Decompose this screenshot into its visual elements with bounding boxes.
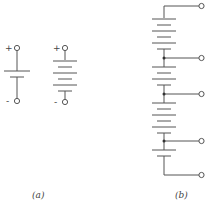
positive-terminal-icon [14,45,19,50]
battery-diagram: + - + - (a) (b) [0,0,211,204]
negative-terminal-icon [14,98,19,103]
plus-label: + [53,43,61,53]
terminal-icon [199,3,204,8]
terminal-icon [199,138,204,143]
terminal-icon [199,55,204,60]
terminal-icon [199,91,204,96]
negative-terminal-icon [62,99,67,104]
single-cell-battery-symbol [4,45,30,103]
junction-dot-icon [163,93,166,96]
caption-a: (a) [32,190,45,200]
positive-terminal-icon [62,45,67,50]
minus-label: - [6,96,9,106]
tapped-battery-symbol [152,3,204,177]
caption-b: (b) [175,190,188,200]
minus-label: - [54,97,57,107]
plus-label: + [5,43,13,53]
terminal-icon [199,172,204,177]
junction-dot-icon [163,57,166,60]
multi-cell-battery-symbol [53,45,77,104]
junction-dot-icon [163,140,166,143]
